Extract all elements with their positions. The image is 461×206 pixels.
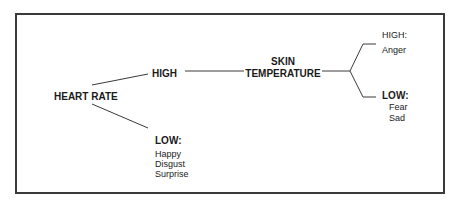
edge-heart-rate-to-high	[92, 74, 148, 85]
node-heart-rate-low: LOW:	[155, 136, 181, 146]
node-skin-high: HIGH:	[382, 31, 407, 40]
edge-heart-rate-to-low	[92, 104, 148, 128]
edge-skin-temp-to-low	[350, 71, 376, 97]
emotion-surprise: Surprise	[155, 170, 189, 179]
node-skin-temperature-line1: SKIN	[244, 57, 322, 67]
emotion-anger: Anger	[382, 46, 406, 55]
edge-skin-temp-to-high	[350, 44, 376, 71]
node-heart-rate-high: HIGH	[152, 69, 177, 79]
emotion-sad: Sad	[389, 114, 405, 123]
node-skin-low: LOW:	[382, 91, 408, 101]
emotion-happy: Happy	[155, 150, 181, 159]
node-skin-temperature-line2: TEMPERATURE	[244, 69, 322, 79]
emotion-disgust: Disgust	[155, 160, 185, 169]
emotion-fear: Fear	[389, 103, 408, 112]
node-heart-rate: HEART RATE	[54, 92, 118, 102]
